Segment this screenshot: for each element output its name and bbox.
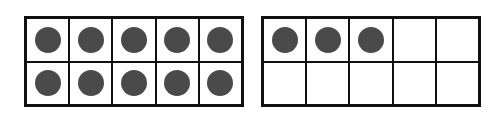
frame-cell — [306, 18, 349, 62]
counter-dot-icon — [164, 27, 190, 53]
counter-dot-icon — [35, 70, 61, 96]
frame-cell — [112, 62, 155, 106]
counter-dot-icon — [78, 27, 104, 53]
counter-dot-icon — [121, 70, 147, 96]
frame-cell — [199, 62, 242, 106]
counter-dot-icon — [35, 27, 61, 53]
frame-cell — [393, 18, 436, 62]
frame-cell — [263, 62, 306, 106]
counter-dot-icon — [164, 70, 190, 96]
ten-frame-1 — [24, 16, 244, 107]
frame-cell — [26, 62, 69, 106]
counter-dot-icon — [121, 27, 147, 53]
frame-cell — [349, 62, 392, 106]
ten-frame-2 — [261, 16, 481, 107]
frame-cell — [393, 62, 436, 106]
frame-cell — [69, 62, 112, 106]
frame-cell — [436, 18, 479, 62]
counter-dot-icon — [272, 27, 298, 53]
frame-cell — [112, 18, 155, 62]
frame-cell — [436, 62, 479, 106]
frame-cell — [199, 18, 242, 62]
counter-dot-icon — [78, 70, 104, 96]
frame-cell — [263, 18, 306, 62]
counter-dot-icon — [358, 27, 384, 53]
frame-cell — [156, 18, 199, 62]
frame-cell — [69, 18, 112, 62]
counter-dot-icon — [207, 70, 233, 96]
counter-dot-icon — [315, 27, 341, 53]
frame-cell — [306, 62, 349, 106]
frame-cell — [349, 18, 392, 62]
counter-dot-icon — [207, 27, 233, 53]
frame-cell — [26, 18, 69, 62]
frame-cell — [156, 62, 199, 106]
